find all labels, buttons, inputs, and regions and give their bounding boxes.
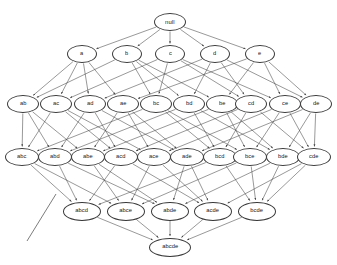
lattice-node-e[interactable]: e <box>245 45 275 63</box>
lattice-node-bcd[interactable]: bcd <box>203 148 237 166</box>
lattice-node-label: abcde <box>162 244 178 250</box>
lattice-node-ace[interactable]: ace <box>137 148 171 166</box>
lattice-node-label: bd <box>186 101 193 107</box>
lattice-node-label: cde <box>309 154 318 160</box>
lattice-node-label: bcd <box>215 154 224 160</box>
lattice-node-cd[interactable]: cd <box>235 95 267 113</box>
lattice-node-label: cd <box>248 101 254 107</box>
lattice-node-label: abce <box>120 208 133 214</box>
lattice-node-null[interactable]: null <box>154 13 186 31</box>
lattice-node-abde[interactable]: abde <box>151 202 189 221</box>
lattice-node-c[interactable]: c <box>155 45 185 63</box>
lattice-node-bcde[interactable]: bcde <box>238 202 276 221</box>
lattice-node-a[interactable]: a <box>67 45 97 63</box>
lattice-node-ac[interactable]: ac <box>40 95 72 113</box>
lattice-node-ab[interactable]: ab <box>7 95 39 113</box>
lattice-node-label: ac <box>53 101 59 107</box>
lattice-nodes-layer: nullabcdeabacadaebcbdbecdcedeabcabdabeac… <box>0 0 337 265</box>
lattice-node-abcde[interactable]: abcde <box>149 238 191 257</box>
lattice-node-bc[interactable]: bc <box>140 95 172 113</box>
lattice-node-abd[interactable]: abd <box>38 148 72 166</box>
lattice-node-b[interactable]: b <box>112 45 142 63</box>
lattice-node-abce[interactable]: abce <box>107 202 145 221</box>
lattice-node-label: ae <box>120 101 127 107</box>
lattice-node-label: ace <box>149 154 158 160</box>
lattice-node-label: ade <box>182 154 192 160</box>
lattice-node-label: bde <box>278 154 288 160</box>
lattice-node-ce[interactable]: ce <box>269 95 301 113</box>
lattice-node-label: ce <box>282 101 288 107</box>
lattice-node-label: null <box>165 19 175 25</box>
lattice-node-label: c <box>169 51 172 57</box>
lattice-node-ade[interactable]: ade <box>170 148 204 166</box>
lattice-node-bde[interactable]: bde <box>266 148 300 166</box>
lattice-node-label: b <box>125 51 128 57</box>
lattice-node-label: be <box>219 101 226 107</box>
lattice-node-acde[interactable]: acde <box>194 202 232 221</box>
lattice-node-de[interactable]: de <box>300 95 332 113</box>
lattice-node-abc[interactable]: abc <box>5 148 39 166</box>
lattice-node-label: bc <box>153 101 159 107</box>
lattice-node-ae[interactable]: ae <box>107 95 139 113</box>
lattice-node-bd[interactable]: bd <box>173 95 205 113</box>
lattice-node-label: abcd <box>76 208 89 214</box>
lattice-node-label: abe <box>83 154 93 160</box>
lattice-node-acd[interactable]: acd <box>104 148 138 166</box>
lattice-node-abe[interactable]: abe <box>71 148 105 166</box>
lattice-node-label: bcde <box>251 208 264 214</box>
lattice-node-ad[interactable]: ad <box>74 95 106 113</box>
lattice-node-label: abde <box>163 208 176 214</box>
lattice-node-label: ab <box>20 101 27 107</box>
lattice-node-abcd[interactable]: abcd <box>63 202 101 221</box>
lattice-node-d[interactable]: d <box>200 45 230 63</box>
lattice-node-be[interactable]: be <box>206 95 238 113</box>
lattice-node-label: acde <box>207 208 220 214</box>
lattice-node-label: ad <box>87 101 94 107</box>
lattice-node-label: a <box>80 51 83 57</box>
lattice-node-label: bce <box>245 154 254 160</box>
lattice-node-label: abc <box>17 154 26 160</box>
lattice-node-label: d <box>213 51 216 57</box>
lattice-diagram-canvas: nullabcdeabacadaebcbdbecdcedeabcabdabeac… <box>0 0 337 265</box>
lattice-node-label: acd <box>116 154 125 160</box>
lattice-node-label: abd <box>50 154 60 160</box>
lattice-node-bce[interactable]: bce <box>233 148 267 166</box>
lattice-node-label: e <box>258 51 261 57</box>
lattice-node-cde[interactable]: cde <box>297 148 331 166</box>
lattice-node-label: de <box>313 101 320 107</box>
